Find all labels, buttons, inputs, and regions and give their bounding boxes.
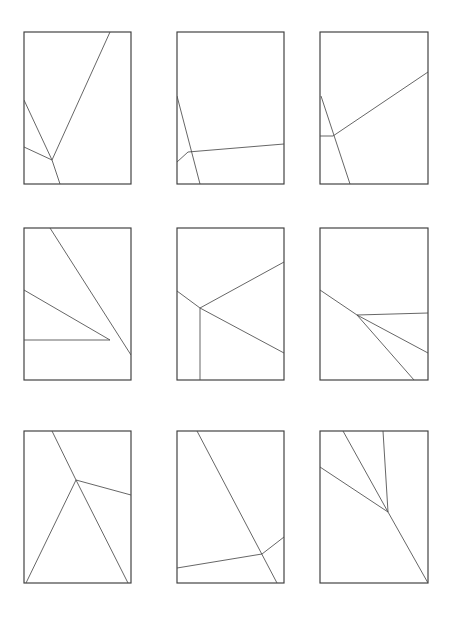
- panel-3: [320, 32, 428, 184]
- panel-1: [24, 32, 131, 184]
- panel-2: [177, 32, 284, 184]
- figure-svg: [0, 0, 452, 624]
- panel-4: [24, 228, 131, 380]
- panel-8-frame: [177, 431, 284, 583]
- panel-7: [24, 431, 131, 583]
- panel-7-frame: [24, 431, 131, 583]
- panel-4-frame: [24, 228, 131, 380]
- panel-5-frame: [177, 228, 284, 380]
- panel-8: [177, 431, 284, 583]
- panel-6: [320, 228, 428, 380]
- figure-canvas: [0, 0, 452, 624]
- panel-9-frame: [320, 431, 428, 583]
- panel-9: [320, 431, 428, 583]
- panel-6-frame: [320, 228, 428, 380]
- panels-group: [24, 32, 428, 583]
- panel-1-frame: [24, 32, 131, 184]
- panel-5: [177, 228, 284, 380]
- panel-2-frame: [177, 32, 284, 184]
